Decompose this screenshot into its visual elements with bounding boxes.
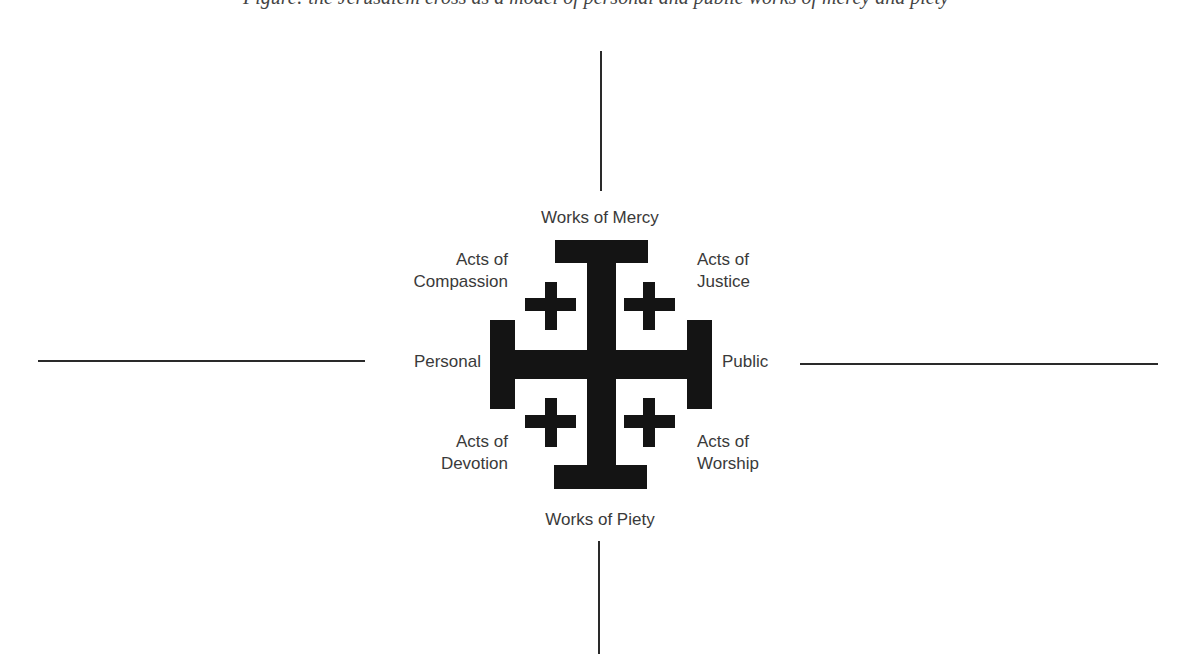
axis-left-line	[38, 360, 365, 362]
small-cross-top-left-v	[545, 282, 557, 330]
axis-bottom-line	[598, 541, 600, 654]
axis-right-line	[800, 363, 1158, 365]
label-line: Acts of	[697, 249, 817, 271]
cross-right-bar	[687, 320, 712, 409]
label-line: Compassion	[360, 271, 508, 293]
axis-top-line	[600, 51, 602, 191]
label-acts-of-devotion: Acts of Devotion	[360, 431, 508, 475]
label-line: Acts of	[360, 431, 508, 453]
label-works-of-piety: Works of Piety	[500, 509, 700, 531]
small-cross-bottom-right-v	[643, 398, 655, 447]
cross-left-bar	[490, 320, 515, 409]
label-line: Justice	[697, 271, 817, 293]
label-public: Public	[722, 351, 822, 373]
label-line: Acts of	[697, 431, 817, 453]
figure-caption: Figure: the Jerusalem cross as a model o…	[0, 0, 1192, 9]
small-cross-bottom-left-v	[545, 398, 557, 447]
cross-horizontal-beam	[490, 350, 712, 379]
label-line: Worship	[697, 453, 817, 475]
label-line: Devotion	[360, 453, 508, 475]
label-works-of-mercy: Works of Mercy	[500, 207, 700, 229]
cross-bottom-bar	[554, 465, 647, 489]
label-acts-of-compassion: Acts of Compassion	[360, 249, 508, 293]
label-personal: Personal	[360, 351, 481, 373]
label-acts-of-worship: Acts of Worship	[697, 431, 817, 475]
small-cross-top-right-v	[643, 282, 655, 330]
label-acts-of-justice: Acts of Justice	[697, 249, 817, 293]
label-line: Acts of	[360, 249, 508, 271]
